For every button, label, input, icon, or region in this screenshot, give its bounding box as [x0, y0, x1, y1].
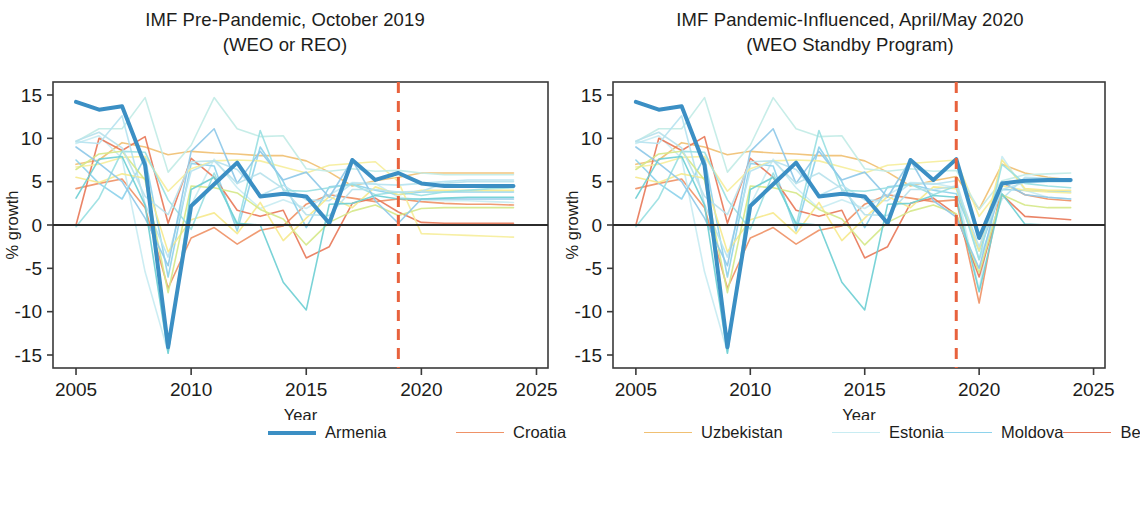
legend-label: Uzbekistan	[701, 424, 783, 441]
x-tick-label: 2025	[515, 379, 557, 400]
y-tick-label: 0	[31, 215, 42, 236]
y-tick-label: -5	[25, 258, 42, 279]
y-tick-label: 15	[581, 85, 602, 106]
x-tick-label: 2020	[958, 379, 1000, 400]
legend-item[interactable]: Croatia	[456, 422, 644, 443]
y-tick-label: -10	[15, 301, 42, 322]
y-tick-label: 0	[591, 215, 602, 236]
figure-root: IMF Pre-Pandemic, October 2019 (WEO or R…	[0, 0, 1140, 528]
legend-grid: ArmeniaCroatiaUzbekistanEstoniaMoldovaBe…	[268, 422, 1140, 443]
chart-panel-left: IMF Pre-Pandemic, October 2019 (WEO or R…	[0, 0, 570, 420]
x-axis-title: Year	[842, 406, 876, 420]
legend-swatch-line-icon	[456, 432, 504, 433]
legend-item[interactable]: Moldova	[944, 422, 1063, 443]
panel-right-plot: -15-10-505101520052010201520202025Year% …	[560, 0, 1140, 420]
series-line	[636, 151, 1071, 292]
y-tick-label: 5	[31, 171, 42, 192]
legend-swatch-line-icon	[268, 431, 316, 435]
series-group	[53, 82, 548, 368]
legend-swatch-line-icon	[944, 432, 992, 433]
x-tick-label: 2015	[844, 379, 886, 400]
series-line	[636, 136, 1071, 353]
y-axis-title: % growth	[3, 191, 21, 260]
y-tick-label: 5	[591, 171, 602, 192]
y-tick-label: 10	[21, 128, 42, 149]
x-tick-label: 2010	[729, 379, 771, 400]
legend-swatch-line-icon	[832, 432, 880, 433]
x-tick-label: 2015	[285, 379, 327, 400]
x-tick-label: 2025	[1072, 379, 1114, 400]
x-tick-label: 2010	[170, 379, 212, 400]
y-tick-label: -10	[575, 301, 602, 322]
panel-left-plot: -15-10-505101520052010201520202025Year% …	[0, 0, 570, 420]
y-tick-label: 15	[21, 85, 42, 106]
y-axis-title: % growth	[563, 191, 581, 260]
y-tick-label: -5	[585, 258, 602, 279]
y-tick-label: -15	[575, 345, 602, 366]
y-tick-label: 10	[581, 128, 602, 149]
x-axis-title: Year	[284, 406, 318, 420]
legend-item[interactable]: Armenia	[268, 422, 456, 443]
legend-swatch-line-icon	[1063, 432, 1111, 433]
y-tick-label: -15	[15, 345, 42, 366]
legend-item[interactable]: Uzbekistan	[644, 422, 832, 443]
series-group	[613, 82, 1105, 368]
series-line	[76, 136, 513, 353]
legend-label: Croatia	[513, 424, 566, 441]
legend-label: Belarus	[1120, 424, 1140, 441]
legend-item[interactable]: Estonia	[832, 422, 944, 443]
chart-panel-right: IMF Pandemic-Influenced, April/May 2020 …	[560, 0, 1140, 420]
legend-swatch-line-icon	[644, 432, 692, 433]
x-tick-label: 2020	[400, 379, 442, 400]
legend-item[interactable]: Belarus	[1063, 422, 1140, 443]
legend-label: Estonia	[889, 424, 944, 441]
x-tick-label: 2005	[615, 379, 657, 400]
legend-label: Armenia	[325, 424, 386, 441]
legend-label: Moldova	[1001, 424, 1063, 441]
chart-legend: ArmeniaCroatiaUzbekistanEstoniaMoldovaBe…	[0, 420, 1140, 528]
x-tick-label: 2005	[55, 379, 97, 400]
